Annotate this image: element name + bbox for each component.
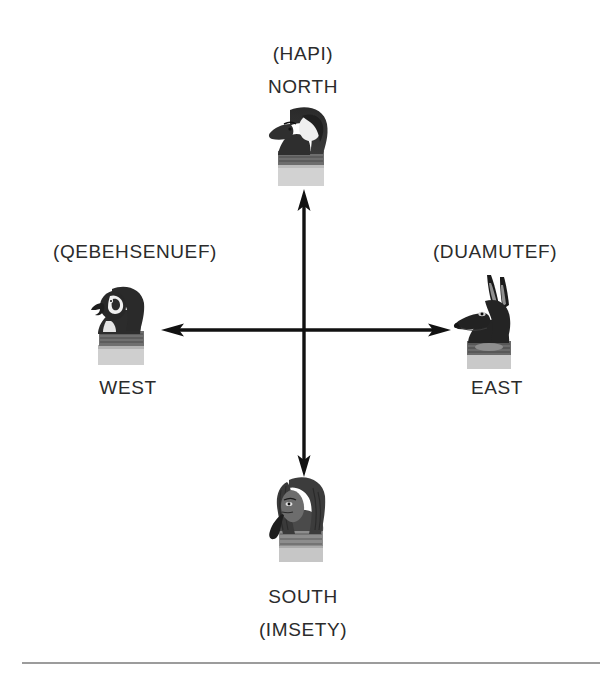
east-deity-label: (DUAMUTEF) [433, 242, 557, 261]
diagram-canvas: (HAPI) NORTH [0, 0, 610, 697]
east-direction-label: EAST [471, 378, 523, 397]
double-headed-horizontal-arrow-icon [158, 314, 454, 348]
human-head-figure-icon [265, 474, 341, 564]
baboon-head-figure-icon [266, 102, 344, 188]
north-direction-label: NORTH [268, 77, 338, 96]
jackal-head-figure-icon [451, 271, 525, 371]
west-direction-label: WEST [99, 378, 156, 397]
south-deity-label: (IMSETY) [259, 620, 347, 639]
bottom-divider [22, 662, 600, 664]
west-deity-label: (QEBEHSENUEF) [53, 242, 217, 261]
falcon-head-figure-icon [90, 279, 160, 367]
north-deity-label: (HAPI) [273, 44, 334, 63]
south-direction-label: SOUTH [268, 587, 338, 606]
